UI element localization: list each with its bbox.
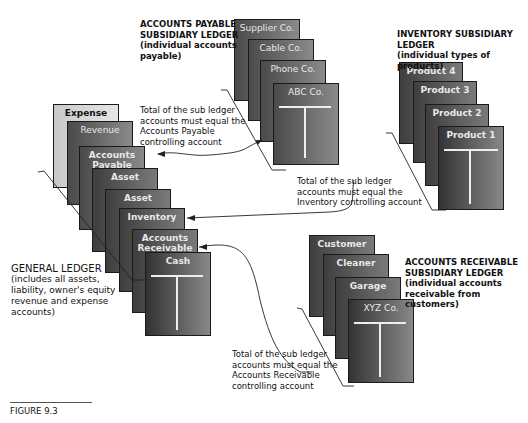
note-line: accounts must equal the <box>140 116 245 127</box>
note-line: Total of the sub ledger <box>140 105 245 116</box>
gl-desc-line: (includes all assets, <box>11 274 115 285</box>
gl-desc-line: liability, owner's equity <box>11 285 115 296</box>
note-line: controlling account <box>140 137 245 148</box>
note-line: accounts must equal the <box>297 187 422 198</box>
heading-line: INVENTORY SUBSIDIARY <box>397 29 528 40</box>
figure-caption: FIGURE 9.3 <box>10 406 58 417</box>
note-line: Inventory controlling account <box>297 197 422 208</box>
note-line: Accounts Receivable <box>232 370 337 381</box>
heading-line: ACCOUNTS RECEIVABLE <box>405 257 528 268</box>
heading-line: payable) <box>140 51 238 62</box>
note-line: Total of the sub ledger <box>232 349 337 360</box>
heading-line: LEDGER <box>397 40 528 51</box>
ap-heading: ACCOUNTS PAYABLE SUBSIDIARY LEDGER (indi… <box>140 19 238 61</box>
note-line: accounts must equal the <box>232 360 337 371</box>
ap-note: Total of the sub ledger accounts must eq… <box>140 105 245 147</box>
note-line: controlling account <box>232 381 337 392</box>
heading-line: receivable from customers) <box>405 289 528 310</box>
heading-line: (individual types of products) <box>397 50 528 71</box>
note-line: Accounts Payable <box>140 126 245 137</box>
ar-heading: ACCOUNTS RECEIVABLE SUBSIDIARY LEDGER (i… <box>405 257 528 310</box>
general-ledger-label: GENERAL LEDGER (includes all assets, lia… <box>11 263 115 318</box>
heading-line: SUBSIDIARY LEDGER <box>140 30 238 41</box>
gl-desc-line: accounts) <box>11 307 115 318</box>
heading-line: ACCOUNTS PAYABLE <box>140 19 238 30</box>
note-line: Total of the sub ledger <box>297 176 422 187</box>
heading-line: (individual accounts <box>405 278 528 289</box>
heading-line: SUBSIDIARY LEDGER <box>405 268 528 279</box>
ar-note: Total of the sub ledger accounts must eq… <box>232 349 337 391</box>
gl-title: GENERAL LEDGER <box>11 263 115 274</box>
gl-desc-line: revenue and expense <box>11 296 115 307</box>
caption-rule <box>10 402 92 403</box>
inventory-heading: INVENTORY SUBSIDIARY LEDGER (individual … <box>397 29 528 71</box>
inventory-note: Total of the sub ledger accounts must eq… <box>297 176 422 208</box>
heading-line: (individual accounts <box>140 40 238 51</box>
